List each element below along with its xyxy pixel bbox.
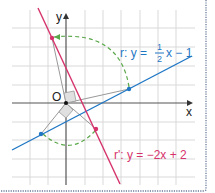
arc-arrow-icon <box>54 34 60 40</box>
y-axis-arrow-icon <box>63 13 69 19</box>
origin-label: O <box>52 90 61 104</box>
line-r-equation-suffix: x − 1 <box>166 46 193 60</box>
x-axis-label: x <box>186 105 192 119</box>
point-on-r <box>127 87 131 91</box>
rotation-arc-upper <box>54 36 129 87</box>
rotation-arc-lower <box>43 131 95 145</box>
point-on-r-prime <box>94 127 98 131</box>
rotation-diagram: x y O r: y = 1 2 x − 1 r': y = −2x + 2 <box>0 0 215 193</box>
right-angle-marker <box>59 103 73 118</box>
line-r-equation-prefix: r: y = <box>120 46 147 60</box>
line-r-fraction-numerator: 1 <box>157 42 162 52</box>
line-r-fraction-denominator: 2 <box>157 54 162 64</box>
point-on-r <box>39 132 43 136</box>
line-r-prime-equation: r': y = −2x + 2 <box>114 148 187 162</box>
line-r-prime <box>38 8 120 184</box>
origin-point <box>64 101 68 105</box>
point-on-r-prime <box>50 36 54 40</box>
y-axis-label: y <box>56 10 62 24</box>
